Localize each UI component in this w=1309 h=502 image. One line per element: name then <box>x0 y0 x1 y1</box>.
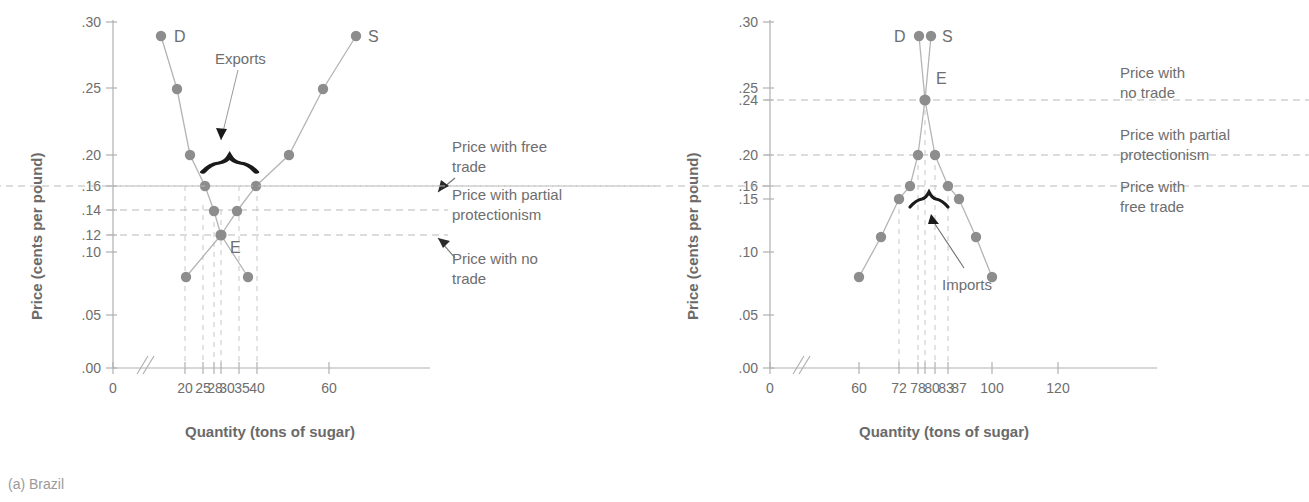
demand-curve-b <box>919 36 992 277</box>
anno-no-trade-b-line2: no trade <box>1120 84 1175 101</box>
x-axis-title-a: Quantity (tons of sugar) <box>185 423 355 440</box>
svg-text:.20: .20 <box>739 147 759 163</box>
anno-partial-a-line2: protectionism <box>452 206 541 223</box>
panel-brazil: Price (cents per pound) .30 .25 .20 . <box>0 0 655 502</box>
panel-united-states: Price (cents per pound) .30 .25 .24 .20 … <box>654 0 1309 502</box>
anno-no-trade-a-line1: Price with no <box>452 250 538 267</box>
svg-text:60: 60 <box>321 380 337 396</box>
svg-text:40: 40 <box>249 380 265 396</box>
svg-text:87: 87 <box>951 380 967 396</box>
curve-label-s-b: S <box>942 28 953 45</box>
imports-label-b: Imports <box>942 276 992 293</box>
imports-brace-b <box>910 192 948 207</box>
imports-arrowhead-b <box>928 214 939 224</box>
svg-text:120: 120 <box>1046 380 1070 396</box>
svg-text:100: 100 <box>980 380 1004 396</box>
supply-points-b <box>854 31 936 282</box>
quantity-guides-b <box>899 100 948 368</box>
svg-text:72: 72 <box>891 380 907 396</box>
svg-text:.25: .25 <box>82 80 102 96</box>
x-tick-labels-a: 0 20 25 28 30 35 40 60 <box>109 380 337 396</box>
svg-text:35: 35 <box>234 380 250 396</box>
svg-text:.00: .00 <box>739 360 759 376</box>
svg-text:60: 60 <box>851 380 867 396</box>
y-tick-labels-b: .30 .25 .24 .20 .16 .15 .10 .05 .00 <box>739 14 759 376</box>
svg-text:.05: .05 <box>739 307 759 323</box>
svg-text:.24: .24 <box>739 92 759 108</box>
exports-label-a: Exports <box>215 50 266 67</box>
svg-text:.05: .05 <box>82 307 102 323</box>
svg-text:20: 20 <box>177 380 193 396</box>
svg-text:.30: .30 <box>739 14 759 30</box>
svg-text:.12: .12 <box>82 227 102 243</box>
svg-text:.10: .10 <box>739 244 759 260</box>
svg-text:.10: .10 <box>82 244 102 260</box>
chart-svg-united-states: .30 .25 .24 .20 .16 .15 .10 .05 .00 0 60… <box>654 0 1309 470</box>
curve-label-s-a: S <box>368 28 379 45</box>
equilibrium-label-a: E <box>230 239 241 256</box>
svg-text:0: 0 <box>766 380 774 396</box>
anno-free-trade-a-line2: trade <box>452 158 486 175</box>
no-trade-arrowhead-a <box>438 238 450 248</box>
anno-free-trade-b-line2: free trade <box>1120 198 1184 215</box>
curve-label-d-a: D <box>174 28 186 45</box>
exports-brace-a <box>203 156 256 172</box>
svg-text:.00: .00 <box>82 360 102 376</box>
anno-free-trade-a-line1: Price with free <box>452 138 547 155</box>
supply-points-a <box>181 31 361 282</box>
supply-curve-a <box>186 36 356 277</box>
curve-label-d-b: D <box>894 28 906 45</box>
svg-text:0: 0 <box>109 380 117 396</box>
x-axis-break-a <box>137 356 154 374</box>
exports-arrowhead-a <box>216 128 227 140</box>
equilibrium-point-b <box>919 94 930 105</box>
svg-text:.20: .20 <box>82 147 102 163</box>
anno-partial-b-line1: Price with partial <box>1120 126 1230 143</box>
caption-brazil: (a) Brazil <box>8 476 64 492</box>
equilibrium-label-b: E <box>936 70 947 87</box>
anno-partial-b-line2: protectionism <box>1120 146 1209 163</box>
x-axis-break-b <box>793 356 810 374</box>
anno-free-trade-b-line1: Price with <box>1120 178 1185 195</box>
svg-text:.30: .30 <box>82 14 102 30</box>
demand-points-b <box>914 31 997 282</box>
x-tick-labels-b: 0 60 72 78 80 83 87 100 120 <box>766 380 1070 396</box>
x-axis-title-b: Quantity (tons of sugar) <box>859 423 1029 440</box>
svg-text:.14: .14 <box>82 202 102 218</box>
y-ticks-a <box>106 22 117 368</box>
y-tick-labels-a: .30 .25 .20 .16 .14 .12 .10 .05 .00 <box>82 14 102 376</box>
svg-text:.15: .15 <box>739 191 759 207</box>
svg-text:30: 30 <box>219 380 235 396</box>
anno-no-trade-a-line2: trade <box>452 270 486 287</box>
y-ticks-b <box>763 22 774 368</box>
chart-svg-brazil: .30 .25 .20 .16 .14 .12 .10 .05 .00 0 20… <box>0 0 655 470</box>
anno-partial-a-line1: Price with partial <box>452 186 562 203</box>
equilibrium-point-a <box>215 229 226 240</box>
anno-no-trade-b-line1: Price with <box>1120 64 1185 81</box>
